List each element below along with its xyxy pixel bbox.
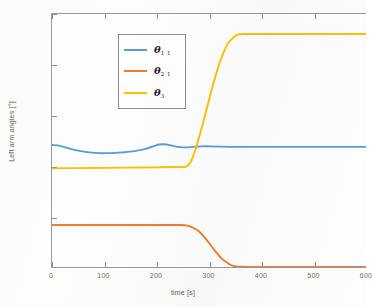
x-tick-label: 400 [255, 272, 267, 279]
legend-item-theta-3: θ3 [119, 83, 185, 103]
legend-box: θ1 1 θ2 1 θ3 [118, 34, 186, 109]
x-tick-mark [105, 262, 106, 267]
y-tick-mark [52, 218, 57, 219]
x-tick-mark [210, 14, 211, 19]
x-tick-label: 200 [150, 272, 162, 279]
legend-swatch-theta-3 [124, 92, 147, 94]
data-lines [52, 14, 366, 267]
legend-label-theta-3: θ3 [154, 88, 165, 98]
x-tick-label: 300 [202, 272, 214, 279]
legend-item-theta-2-1: θ2 1 [119, 61, 185, 81]
x-tick-mark [262, 14, 263, 19]
legend-swatch-theta-1-1 [124, 49, 147, 51]
y-tick-mark [52, 167, 57, 168]
x-tick-label: 0 [49, 272, 53, 279]
legend-swatch-theta-2-1 [124, 70, 147, 72]
x-tick-label: 500 [307, 272, 319, 279]
legend-label-theta-1-1: θ1 1 [154, 45, 171, 55]
x-axis-title: time [s] [0, 289, 366, 296]
series-line-theta_1_1 [52, 144, 366, 153]
x-tick-mark [315, 14, 316, 19]
x-tick-mark [105, 14, 106, 19]
x-tick-mark [210, 262, 211, 267]
legend-item-theta-1-1: θ1 1 [119, 40, 185, 60]
y-axis-title: Left arm angles [°] [8, 77, 15, 187]
x-tick-label: 100 [97, 272, 109, 279]
x-tick-label: 600 [360, 272, 372, 279]
plot-area: θ1 1 θ2 1 θ3 [51, 13, 366, 268]
y-tick-mark [52, 65, 57, 66]
x-tick-mark [52, 262, 53, 267]
y-tick-mark [52, 116, 57, 117]
x-tick-mark [157, 14, 158, 19]
x-tick-mark [315, 262, 316, 267]
x-tick-mark [157, 262, 158, 267]
series-line-theta_3 [52, 34, 366, 168]
legend-label-theta-2-1: θ2 1 [154, 66, 171, 76]
series-line-theta_2_1 [52, 225, 366, 267]
x-tick-mark [262, 262, 263, 267]
x-tick-mark [52, 14, 53, 19]
